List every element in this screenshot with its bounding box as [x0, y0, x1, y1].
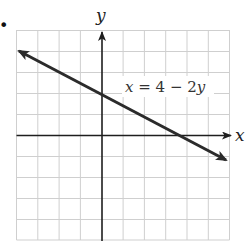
y-axis-label: y [95, 5, 106, 25]
coordinate-graph: • x y x = 4 − 2y [0, 0, 249, 248]
equation-body: = 4 − 2 [133, 78, 196, 96]
equation-var-y: y [196, 78, 206, 96]
problem-bullet: • [0, 16, 8, 35]
equation-label: x = 4 − 2y [125, 78, 206, 96]
x-axis-label: x [235, 125, 245, 145]
graph-line [19, 51, 226, 160]
